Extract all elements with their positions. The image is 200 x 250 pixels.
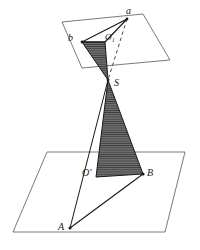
label-b-upper: B xyxy=(147,168,153,178)
upper-shaded-triangle xyxy=(82,42,108,80)
figure-canvas xyxy=(0,0,200,250)
label-o-prime: O' xyxy=(82,168,91,178)
label-a-upper: A xyxy=(58,222,64,232)
label-a: a xyxy=(126,6,131,16)
edge-A-to-B xyxy=(70,174,143,228)
vertex-dot-A xyxy=(69,227,72,230)
upper-plane xyxy=(62,14,170,68)
geometry-figure: a b O₁ S O' B A xyxy=(0,0,200,250)
vertex-dot-s xyxy=(107,79,110,82)
lower-shaded-triangle xyxy=(96,80,143,177)
label-b: b xyxy=(68,33,73,43)
vertex-dot-a xyxy=(126,18,129,21)
label-s: S xyxy=(114,78,119,88)
vertex-dot-B xyxy=(141,172,144,175)
label-o1: O₁ xyxy=(105,33,115,42)
vertex-dot-b xyxy=(81,41,84,44)
